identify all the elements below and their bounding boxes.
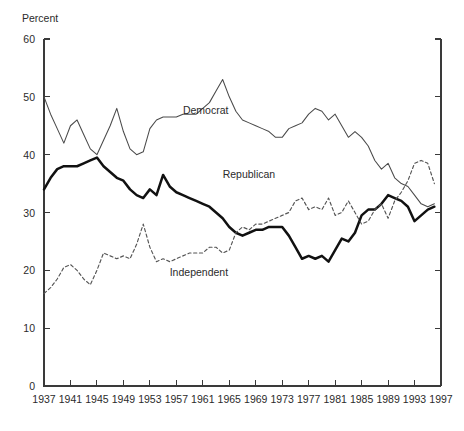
y-tick-label: 20 [23, 264, 35, 276]
series-label-independent: Independent [170, 266, 228, 278]
x-tick-label: 1945 [85, 393, 109, 405]
chart-container: Percent 0102030405060 193719411945194919… [0, 0, 464, 431]
x-tick-label: 1997 [429, 393, 453, 405]
x-tick-label: 1937 [32, 393, 56, 405]
y-tick-label: 60 [23, 33, 35, 45]
y-tick-label: 40 [23, 149, 35, 161]
axis-frame [44, 39, 441, 386]
y-tick-label: 10 [23, 322, 35, 334]
x-tick-label: 1989 [376, 393, 400, 405]
series-label-democrat: Democrat [183, 104, 229, 116]
y-axis-ticks: 0102030405060 [23, 33, 441, 392]
line-chart: Percent 0102030405060 193719411945194919… [0, 0, 464, 431]
x-tick-label: 1961 [191, 393, 215, 405]
x-tick-label: 1953 [138, 393, 162, 405]
x-tick-label: 1973 [271, 393, 295, 405]
y-tick-label: 30 [23, 207, 35, 219]
x-tick-label: 1977 [297, 393, 321, 405]
y-tick-label: 0 [29, 380, 35, 392]
x-tick-label: 1993 [403, 393, 427, 405]
series-group [44, 79, 434, 293]
x-tick-label: 1965 [218, 393, 242, 405]
series-line-democrat [44, 79, 434, 206]
y-tick-label: 50 [23, 91, 35, 103]
series-annotations: DemocratRepublicanIndependent [170, 104, 276, 278]
x-tick-label: 1949 [112, 393, 136, 405]
x-axis-ticks: 1937194119451949195319571961196519691973… [32, 380, 453, 405]
y-axis-title: Percent [22, 12, 58, 24]
x-tick-label: 1969 [244, 393, 268, 405]
series-line-independent [44, 160, 434, 293]
x-tick-label: 1985 [350, 393, 374, 405]
x-tick-label: 1981 [323, 393, 347, 405]
series-label-republican: Republican [223, 168, 276, 180]
x-tick-label: 1941 [59, 393, 83, 405]
x-tick-label: 1957 [165, 393, 189, 405]
